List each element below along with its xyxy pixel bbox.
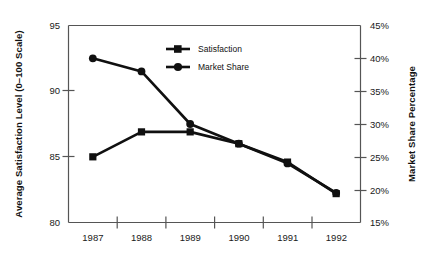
circle-data-point: [138, 68, 146, 76]
circle-data-point: [332, 189, 340, 197]
right-tick-label-25: 25%: [370, 152, 390, 163]
left-tick-label-90: 90: [49, 85, 60, 96]
circle-data-point: [186, 120, 194, 128]
x-label-1992: 1992: [326, 232, 347, 243]
left-tick-label-85: 85: [49, 151, 60, 162]
legend-item-satisfaction: Satisfaction: [166, 44, 242, 54]
square-data-point: [138, 128, 145, 135]
x-label-1990: 1990: [228, 232, 249, 243]
x-label-1989: 1989: [180, 232, 201, 243]
x-label-1988: 1988: [131, 232, 152, 243]
right-tick-label-35: 35%: [370, 86, 390, 97]
right-tick-label-45: 45%: [370, 20, 390, 31]
circle-data-point: [284, 160, 292, 168]
x-label-1991: 1991: [277, 232, 298, 243]
right-tick-label-30: 30%: [370, 119, 390, 130]
right-tick-label-40: 40%: [370, 53, 390, 64]
left-tick-label-95: 95: [49, 20, 60, 31]
right-axis-title: Market Share Percentage: [406, 66, 417, 182]
legend-label-market-share: Market Share: [198, 62, 249, 72]
square-data-point: [89, 153, 96, 160]
square-marker-icon: [174, 45, 182, 53]
square-data-point: [187, 128, 194, 135]
x-label-1987: 1987: [82, 232, 103, 243]
circle-data-point: [235, 140, 243, 148]
circle-data-point: [89, 54, 97, 62]
legend-label-satisfaction: Satisfaction: [198, 44, 242, 54]
legend-item-market-share: Market Share: [166, 62, 249, 72]
left-tick-label-80: 80: [49, 217, 60, 228]
chart-figure: 80 85 90 95 15% 20% 25% 30% 35% 40% 45% …: [0, 0, 429, 258]
left-axis-title: Average Satisfaction Level (0–100 Scale): [13, 30, 24, 217]
right-tick-label-20: 20%: [370, 185, 390, 196]
circle-marker-icon: [174, 63, 182, 71]
dual-axis-line-chart: 80 85 90 95 15% 20% 25% 30% 35% 40% 45% …: [0, 0, 429, 258]
right-tick-label-15: 15%: [370, 217, 390, 228]
